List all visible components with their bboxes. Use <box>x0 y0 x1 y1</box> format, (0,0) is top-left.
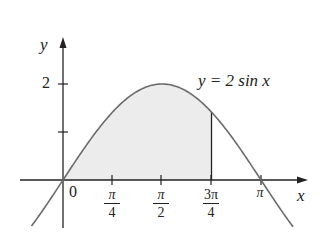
x-axis-label: x <box>297 187 305 204</box>
fraction-denominator: 4 <box>199 204 223 220</box>
fraction-numerator: 3π <box>199 188 223 203</box>
numerator-text: 3π <box>204 187 218 202</box>
x-tick-label-3pi4: 3π 4 <box>199 188 223 220</box>
fraction-numerator: π <box>149 188 173 203</box>
x-tick-label-pi: π <box>248 186 272 201</box>
x-axis-arrow-icon <box>297 177 308 184</box>
origin-label: 0 <box>69 184 77 200</box>
y-axis-arrow-icon <box>60 37 67 48</box>
fraction-numerator: π <box>248 186 272 201</box>
equation-label: y = 2 sin x <box>198 72 270 89</box>
equation-text: y = 2 sin x <box>198 71 270 90</box>
x-tick-label-pi4: π 4 <box>100 188 124 220</box>
fraction-denominator: 4 <box>100 204 124 220</box>
shaded-area <box>63 84 212 180</box>
fraction-numerator: π <box>100 188 124 203</box>
area-diagram: y 2 0 x y = 2 sin x π 4 π 2 3π 4 π <box>0 0 320 240</box>
y-tick-label-2: 2 <box>42 75 50 91</box>
y-axis-label: y <box>40 36 48 53</box>
fraction-denominator: 2 <box>149 204 173 220</box>
x-tick-label-pi2: π 2 <box>149 188 173 220</box>
